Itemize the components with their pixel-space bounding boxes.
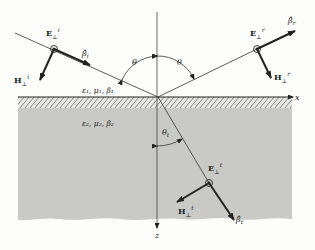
theta-incident-label: θ: [132, 58, 137, 67]
beta-reflected-vector: [257, 31, 295, 49]
diagram-canvas: x z ε₁, μ₁, β₁ ε₂, μ₂, β₂ θ θ θt E⊥i β̂i…: [0, 0, 315, 250]
theta-reflected-label: θ: [177, 58, 182, 67]
beta-incident-label: β̂i: [81, 49, 89, 59]
theta-i-arc: [122, 56, 157, 80]
medium2-region: [18, 108, 292, 220]
beta-reflected-label: β̂r: [287, 16, 297, 26]
h-reflected-vector: [257, 49, 271, 78]
h-reflected-label: H⊥r: [274, 70, 291, 84]
h-incident-vector: [40, 49, 54, 80]
z-axis-label: z: [154, 231, 160, 240]
x-axis-label: x: [295, 93, 300, 102]
reflected-ray: [158, 49, 257, 97]
medium2-label: ε₂, μ₂, β₂: [82, 119, 114, 128]
e-incident-label: E⊥i: [46, 26, 60, 40]
h-incident-label: H⊥i: [14, 73, 29, 87]
interface-hatch: [18, 97, 292, 108]
medium1-label: ε₁, μ₁, β₁: [82, 86, 114, 95]
e-reflected-label: E⊥r: [250, 26, 266, 40]
theta-r-arc: [157, 56, 194, 79]
